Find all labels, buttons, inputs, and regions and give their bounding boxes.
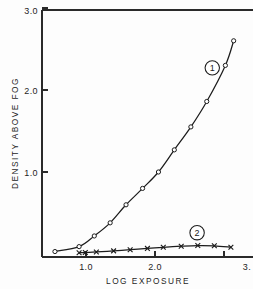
series-2-badge: 2	[190, 225, 204, 239]
y-axis-title: DENSITY ABOVE FOG	[10, 77, 20, 189]
y-tick-label-2: 2.0	[24, 86, 38, 96]
x-tick-label-3: 3.	[243, 262, 251, 272]
data-point-marker	[92, 234, 96, 238]
series-2-badge-label: 2	[195, 228, 200, 238]
data-point-marker	[156, 170, 160, 174]
data-point-marker	[108, 221, 112, 225]
y-axis-ticks	[42, 8, 48, 172]
chart-figure: 3.0 2.0 1.0 1.0 2.0 3. LOG EXPOSURE DENS…	[0, 0, 253, 289]
data-point-marker	[53, 249, 57, 253]
x-tick-label-2: 2.0	[148, 262, 162, 272]
data-point-marker	[124, 203, 128, 207]
series-1-badge: 1	[205, 61, 219, 75]
chart-plot-area: 3.0 2.0 1.0 1.0 2.0 3. LOG EXPOSURE DENS…	[0, 0, 253, 289]
data-point-marker	[140, 186, 144, 190]
data-point-marker	[189, 125, 193, 129]
data-point-marker	[223, 63, 227, 67]
x-axis-title: LOG EXPOSURE	[106, 276, 190, 286]
data-point-marker	[172, 148, 176, 152]
data-point-marker	[77, 245, 81, 249]
y-tick-label-3: 3.0	[24, 6, 38, 16]
x-tick-label-1: 1.0	[79, 262, 93, 272]
data-point-marker	[232, 39, 236, 43]
series-1-badge-label: 1	[210, 63, 215, 73]
data-point-marker	[205, 99, 209, 103]
y-tick-label-1: 1.0	[24, 168, 38, 178]
